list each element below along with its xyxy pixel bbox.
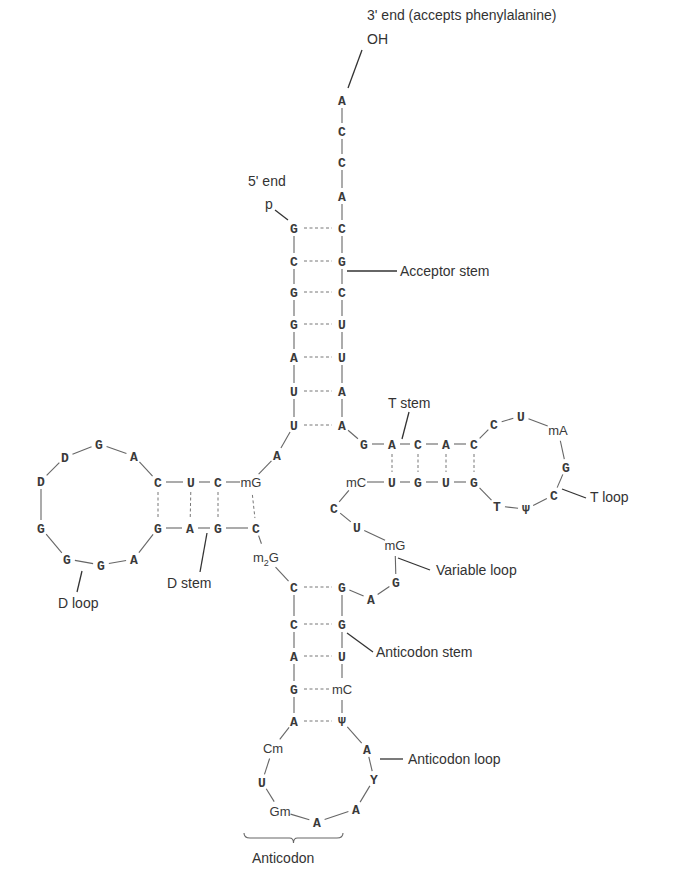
- nucleotide-t-loop-5: mA: [548, 423, 568, 438]
- label-t-stem: T stem: [388, 395, 431, 411]
- nucleotides: ACCAGCGGAUUCGCUUAAAmGCUCAGDDGGGAGAGCm2GC…: [37, 94, 570, 831]
- backbone-bond: [505, 507, 518, 508]
- nucleotide-t-top-3: A: [442, 438, 450, 453]
- label-acceptor-stem: Acceptor stem: [400, 263, 489, 279]
- backbone-bond: [557, 474, 563, 487]
- backbone-bond: [139, 462, 152, 476]
- nucleotide-d-loop-4: D: [37, 475, 45, 490]
- nucleotide-ac-R3: U: [338, 650, 346, 665]
- base-pair-hbond: [252, 495, 255, 518]
- nucleotide-acc-3-A: A: [338, 94, 346, 109]
- nucleotide-acc-L5: A: [290, 351, 298, 366]
- nucleotide-ac-R2: G: [338, 618, 346, 633]
- nucleotide-d-bot-2: A: [186, 522, 194, 537]
- nucleotide-d-top-3: U: [187, 476, 195, 491]
- nucleotide-ac-R5: Ψ: [338, 715, 346, 730]
- t-stem-leader: [402, 412, 409, 439]
- label-anticodon-loop: Anticodon loop: [408, 751, 501, 767]
- t-loop-leader: [562, 489, 586, 498]
- nucleotide-t-bot-1: U: [388, 476, 396, 491]
- label-variable-loop: Variable loop: [436, 562, 517, 578]
- nucleotide-t-bot-4: G: [470, 476, 478, 491]
- backbone-bond: [339, 490, 349, 501]
- nucleotide-t-bot-3: U: [442, 476, 450, 491]
- backbone-bond: [528, 419, 547, 426]
- backbone-bond: [533, 499, 547, 506]
- nucleotide-ac-loop-3: Gm: [270, 804, 291, 819]
- backbone-bond: [480, 430, 489, 439]
- backbone-bond: [291, 814, 310, 820]
- backbone-bond: [107, 447, 127, 454]
- backbone-bond: [276, 567, 289, 581]
- nucleotide-var-2: G: [392, 576, 400, 591]
- backbone-bond: [369, 757, 372, 771]
- backbone-bond: [378, 586, 390, 594]
- nucleotide-t-loop-6: U: [517, 410, 525, 425]
- label-three-prime-end: 3' end (accepts phenylalanine): [367, 7, 556, 23]
- nucleotide-acc-L1: G: [290, 222, 298, 237]
- nucleotide-t-top-4: C: [470, 438, 478, 453]
- label-d-loop: D loop: [58, 595, 99, 611]
- oh-leader: [348, 50, 362, 88]
- backbone-bond: [349, 590, 363, 596]
- backbone-bond: [264, 758, 269, 774]
- backbone-bond: [280, 727, 289, 739]
- nucleotide-ac-L2: C: [290, 618, 298, 633]
- backbone-bond: [75, 560, 93, 563]
- nucleotide-var-5: C: [330, 502, 338, 517]
- backbone-bond: [347, 727, 361, 743]
- nucleotide-acc-L3: G: [290, 286, 298, 301]
- anticodon-stem-leader: [347, 633, 373, 652]
- nucleotide-acc-L2: C: [290, 255, 298, 270]
- nucleotide-ac-R4: mC: [332, 682, 352, 697]
- backbone-bond: [348, 430, 358, 439]
- nucleotide-ac-loop-1: Cm: [263, 741, 283, 756]
- nucleotide-ac-loop-5: A: [352, 803, 360, 818]
- nucleotide-t-loop-7: C: [490, 418, 498, 433]
- nucleotide-d-bot-1: G: [154, 522, 162, 537]
- nucleotide-acc-L6: U: [290, 385, 298, 400]
- nucleotide-ac-loop-6: Y: [370, 773, 378, 788]
- nucleotide-d-bot-4: C: [252, 522, 260, 537]
- nucleotide-ac-loop-7: A: [363, 743, 371, 758]
- trna-cloverleaf-diagram: ACCAGCGGAUUCGCUUAAAmGCUCAGDDGGGAGAGCm2GC…: [0, 0, 673, 894]
- nucleotide-t-bot-2: G: [414, 476, 422, 491]
- nucleotide-t-loop-1: T: [493, 500, 501, 515]
- label-anticodon: Anticodon: [252, 850, 314, 866]
- backbone-bond: [325, 812, 349, 820]
- nucleotide-d-top-1: mG: [241, 475, 262, 490]
- nucleotide-acc-R2: G: [338, 255, 346, 270]
- nucleotide-ac-L4: G: [290, 683, 298, 698]
- nucleotide-d-top-4: C: [154, 476, 162, 491]
- nucleotide-acc-R6: A: [338, 385, 346, 400]
- d-loop-leader: [77, 571, 82, 592]
- label-phosphate: p: [265, 196, 273, 212]
- nucleotide-t-top-2: C: [414, 438, 422, 453]
- nucleotide-t-loop-2: Ψ: [522, 503, 530, 518]
- nucleotide-link-m2G: m2G: [253, 550, 279, 568]
- backbone-bond: [364, 530, 385, 540]
- anticodon-brace: [244, 833, 343, 843]
- nucleotide-var-3: mG: [385, 538, 406, 553]
- label-t-loop: T loop: [590, 489, 629, 505]
- backbone-bond: [259, 461, 272, 474]
- backbone-bond: [72, 447, 91, 454]
- nucleotide-ac-L5: A: [290, 715, 298, 730]
- nucleotide-d-loop-2: G: [95, 438, 103, 453]
- label-anticodon-stem: Anticodon stem: [376, 644, 473, 660]
- nucleotide-t-loop-3: C: [550, 489, 558, 504]
- nucleotide-d-top-2: C: [214, 476, 222, 491]
- backbone-bonds: [41, 108, 564, 820]
- backbone-bond: [502, 418, 514, 421]
- nucleotide-acc-3-C1: C: [338, 125, 346, 140]
- nucleotide-acc-L4: G: [290, 318, 298, 333]
- nucleotide-d-loop-1: A: [130, 450, 138, 465]
- backbone-bond: [560, 441, 564, 459]
- nucleotide-d-loop-7: G: [97, 559, 105, 574]
- nucleotide-acc-R1: C: [338, 222, 346, 237]
- nucleotide-t-top-1: A: [388, 438, 396, 453]
- nucleotide-t-loop-4: G: [562, 461, 570, 476]
- nucleotide-d-loop-5: G: [37, 522, 45, 537]
- nucleotide-ac-loop-2: U: [258, 776, 266, 791]
- nucleotide-acc-3-C2: C: [338, 156, 346, 171]
